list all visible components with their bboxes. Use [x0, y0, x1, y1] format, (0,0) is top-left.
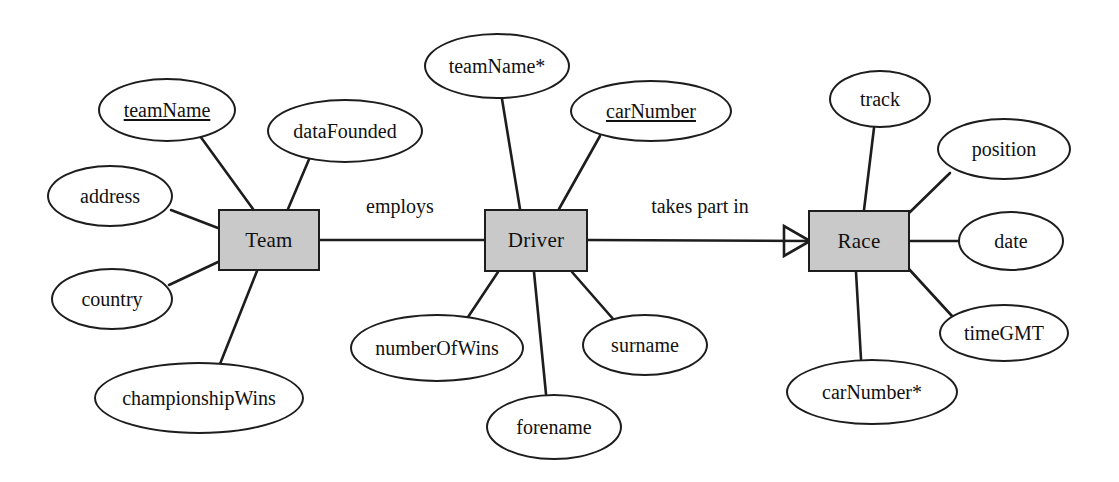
- attribute-label: position: [972, 139, 1036, 159]
- connector-line-team-datafounded: [288, 157, 310, 209]
- connector-line-race-position: [909, 173, 950, 213]
- attribute-label: surname: [611, 335, 679, 355]
- attribute-team-datafounded[interactable]: dataFounded: [267, 99, 423, 163]
- attribute-label: track: [860, 89, 900, 109]
- entity-race[interactable]: Race: [808, 210, 910, 272]
- attribute-label: dataFounded: [293, 121, 396, 141]
- attribute-driver-teamname[interactable]: teamName*: [424, 33, 570, 99]
- connector-line-driver-surname: [572, 272, 614, 320]
- attribute-driver-surname[interactable]: surname: [582, 314, 708, 376]
- attribute-team-teamname[interactable]: teamName: [98, 78, 236, 142]
- attribute-label: numberOfWins: [375, 338, 499, 358]
- connector-line-team-country: [169, 262, 218, 285]
- attribute-label: address: [80, 186, 140, 206]
- connector-line-driver-numberofwins: [468, 272, 498, 317]
- attribute-label: date: [994, 231, 1027, 251]
- relationship-line-takes-part-in: [588, 240, 810, 241]
- attribute-driver-numberofwins[interactable]: numberOfWins: [350, 314, 524, 382]
- attribute-team-country[interactable]: country: [51, 268, 173, 330]
- connector-line-driver-carnumber: [559, 136, 600, 209]
- entity-label: Race: [837, 231, 880, 252]
- entity-team[interactable]: Team: [218, 209, 320, 271]
- attribute-race-carnumber[interactable]: carNumber*: [786, 359, 958, 425]
- attribute-race-timegmt[interactable]: timeGMT: [939, 304, 1069, 362]
- connector-line-team-championshipwins: [220, 271, 257, 364]
- attribute-label: timeGMT: [964, 323, 1044, 343]
- attribute-label: forename: [516, 417, 592, 437]
- entity-driver[interactable]: Driver: [484, 209, 588, 272]
- connector-line-race-carnumber: [856, 272, 861, 359]
- attribute-label: teamName*: [449, 56, 546, 76]
- attribute-label: teamName: [124, 100, 211, 120]
- attribute-label: country: [81, 289, 142, 309]
- connector-line-team-address: [171, 210, 218, 228]
- attribute-label: carNumber: [606, 101, 696, 121]
- attribute-race-position[interactable]: position: [937, 118, 1071, 180]
- attribute-driver-carnumber[interactable]: carNumber: [570, 80, 732, 142]
- entity-label: Team: [245, 230, 293, 251]
- connector-line-race-track: [864, 128, 874, 210]
- attribute-race-date[interactable]: date: [958, 211, 1064, 271]
- attribute-team-championshipwins[interactable]: championshipWins: [94, 362, 304, 434]
- connector-line-driver-teamname: [502, 99, 520, 209]
- connector-line-driver-forename: [534, 272, 546, 394]
- attribute-race-track[interactable]: track: [829, 70, 931, 128]
- relationship-label-employs: employs: [366, 196, 434, 216]
- attribute-team-address[interactable]: address: [47, 165, 173, 227]
- attribute-label: championshipWins: [122, 388, 276, 408]
- connector-line-race-timegmt: [908, 268, 952, 316]
- connector-line-team-teamname: [200, 136, 253, 209]
- entity-label: Driver: [508, 230, 565, 251]
- relationship-label-takes-part-in: takes part in: [651, 196, 749, 216]
- attribute-driver-forename[interactable]: forename: [486, 394, 622, 460]
- attribute-label: carNumber*: [822, 382, 922, 402]
- er-diagram-canvas: Team Driver Race employs takes part in t…: [0, 0, 1119, 482]
